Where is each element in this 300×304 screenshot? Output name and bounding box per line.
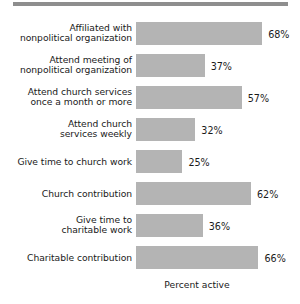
bar-track: 66% bbox=[136, 246, 300, 269]
chart-row: Give time to charitable work36% bbox=[0, 214, 300, 237]
bar bbox=[136, 182, 251, 205]
category-label: Church contribution bbox=[0, 188, 132, 199]
bar-track: 32% bbox=[136, 118, 300, 141]
bar-value-label: 32% bbox=[201, 124, 222, 135]
bar-track: 68% bbox=[136, 22, 300, 45]
category-label: Affiliated with nonpolitical organizatio… bbox=[0, 23, 132, 44]
category-label: Charitable contribution bbox=[0, 252, 132, 263]
chart-row: Attend church services once a month or m… bbox=[0, 86, 300, 109]
bar-value-label: 25% bbox=[188, 156, 209, 167]
bar bbox=[136, 118, 195, 141]
bar-value-label: 66% bbox=[264, 252, 285, 263]
chart-row: Charitable contribution66% bbox=[0, 246, 300, 269]
top-divider-rule bbox=[13, 2, 288, 6]
bar-value-label: 62% bbox=[257, 188, 278, 199]
chart-plot-area: Affiliated with nonpolitical organizatio… bbox=[0, 16, 300, 274]
category-label: Attend meeting of nonpolitical organizat… bbox=[0, 55, 132, 76]
bar-track: 37% bbox=[136, 54, 300, 77]
chart-row: Church contribution62% bbox=[0, 182, 300, 205]
x-axis-title: Percent active bbox=[136, 279, 258, 290]
bar bbox=[136, 86, 242, 109]
bar-track: 62% bbox=[136, 182, 300, 205]
bar-chart-figure: Affiliated with nonpolitical organizatio… bbox=[0, 0, 300, 304]
bar-track: 36% bbox=[136, 214, 300, 237]
bar-value-label: 36% bbox=[209, 220, 230, 231]
category-label: Give time to church work bbox=[0, 156, 132, 167]
bar-track: 25% bbox=[136, 150, 300, 173]
bar bbox=[136, 54, 205, 77]
category-label: Attend church services weekly bbox=[0, 119, 132, 140]
category-label: Give time to charitable work bbox=[0, 215, 132, 236]
bar-value-label: 68% bbox=[268, 28, 289, 39]
chart-row: Affiliated with nonpolitical organizatio… bbox=[0, 22, 300, 45]
bar bbox=[136, 214, 203, 237]
chart-row: Attend meeting of nonpolitical organizat… bbox=[0, 54, 300, 77]
chart-row: Attend church services weekly32% bbox=[0, 118, 300, 141]
category-label: Attend church services once a month or m… bbox=[0, 87, 132, 108]
bar bbox=[136, 246, 258, 269]
bar-track: 57% bbox=[136, 86, 300, 109]
bar bbox=[136, 150, 182, 173]
chart-row: Give time to church work25% bbox=[0, 150, 300, 173]
bar-value-label: 57% bbox=[248, 92, 269, 103]
bar bbox=[136, 22, 262, 45]
bar-value-label: 37% bbox=[211, 60, 232, 71]
